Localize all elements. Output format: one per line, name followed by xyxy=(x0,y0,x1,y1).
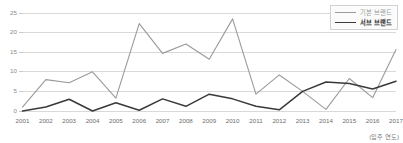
line-chart: 0510152025 20012002200320042005200620072… xyxy=(0,0,403,143)
x-tick-label: 2015 xyxy=(342,117,356,124)
x-tick-label: 2010 xyxy=(226,117,240,124)
x-tick-label: 2014 xyxy=(319,117,333,124)
legend-label-sub-brand: 서브 브랜드 xyxy=(360,18,392,27)
y-tick-label: 10 xyxy=(10,67,17,74)
x-tick-label: 2004 xyxy=(86,117,100,124)
x-tick-label: 2016 xyxy=(366,117,380,124)
y-axis-tick-labels: 0510152025 xyxy=(10,9,17,114)
series-line-sub-brand xyxy=(23,81,397,111)
chart-legend: 기본 브랜드 서브 브랜드 xyxy=(330,5,398,30)
x-tick-label: 2001 xyxy=(16,117,30,124)
legend-item-primary-brand: 기본 브랜드 xyxy=(335,8,392,17)
y-tick-label: 5 xyxy=(14,87,18,94)
legend-item-sub-brand: 서브 브랜드 xyxy=(335,18,392,27)
x-tick-label: 2007 xyxy=(156,117,170,124)
x-tick-label: 2005 xyxy=(109,117,123,124)
x-tick-label: 2017 xyxy=(389,117,403,124)
y-tick-label: 25 xyxy=(10,9,17,16)
x-tick-label: 2013 xyxy=(296,117,310,124)
x-axis-caption: (입주 연도) xyxy=(369,133,399,141)
y-axis-tick-marks xyxy=(19,13,23,111)
x-axis-tick-labels: 2001200220032004200520062007200820092010… xyxy=(16,117,403,124)
y-tick-label: 20 xyxy=(10,28,17,35)
x-tick-label: 2012 xyxy=(272,117,286,124)
x-tick-label: 2011 xyxy=(249,117,263,124)
legend-swatch-sub-brand xyxy=(335,22,356,23)
legend-label-primary-brand: 기본 브랜드 xyxy=(360,8,392,17)
x-tick-label: 2008 xyxy=(179,117,193,124)
y-tick-label: 0 xyxy=(14,107,18,114)
y-tick-label: 15 xyxy=(10,48,17,55)
x-tick-label: 2002 xyxy=(39,117,53,124)
x-tick-label: 2003 xyxy=(62,117,76,124)
x-tick-label: 2006 xyxy=(132,117,146,124)
legend-swatch-primary-brand xyxy=(335,12,356,13)
x-tick-label: 2009 xyxy=(202,117,216,124)
